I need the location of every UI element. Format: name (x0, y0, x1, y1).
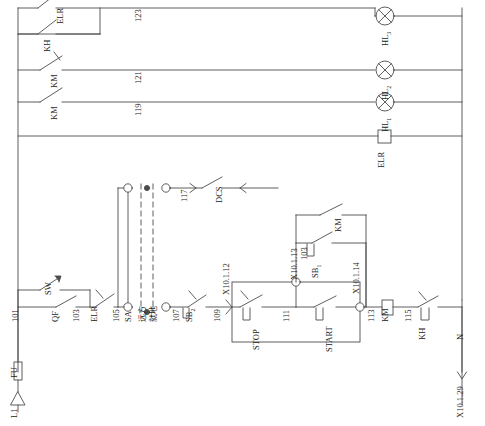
sa-terminal-top-left (124, 184, 132, 192)
schematic-canvas: 123 121 119 117 ELR KH KM KM HL3 HL2 HL1… (0, 0, 485, 426)
contact-label-sb1: SB1 (311, 265, 322, 278)
sa-dot-top (144, 185, 149, 190)
rung-number-119: 119 (134, 104, 143, 116)
coil-label-km: KM (381, 308, 390, 322)
contact-label-sw: SW (44, 282, 53, 295)
lamp-label-hl1: HL1 (381, 118, 392, 132)
contact-label-dcs: DCS (215, 186, 224, 203)
contact-label-elr-top: ELR (56, 8, 65, 24)
start-button-bracket (316, 308, 323, 320)
phase-label-l1: L1 (10, 409, 19, 418)
terminal-x10114-node (356, 303, 364, 311)
km-no-blade (40, 88, 62, 102)
rung-number-121: 121 (134, 71, 143, 84)
kh-nc-blade (418, 296, 438, 307)
terminal-label-x10114: X10.1.14 (352, 262, 361, 294)
wire-number-111: 111 (282, 310, 291, 322)
terminal-label-x10113: X10.1.13 (290, 248, 299, 280)
terminal-label-x10112: X10.1.12 (222, 263, 231, 295)
wire-number-105: 105 (112, 309, 121, 322)
terminal-label-x10129: X10.1.29 (456, 386, 465, 418)
contact-label-kh-top: KH (43, 40, 52, 52)
switch-label-sa: SA (124, 311, 133, 322)
button-label-start[interactable]: START (325, 326, 334, 352)
kh-button-bracket (421, 308, 429, 320)
button-label-stop[interactable]: STOP (252, 329, 261, 350)
contact-label-elr-main: ELR (90, 306, 99, 322)
wire-number-113: 113 (367, 310, 376, 322)
sb2-bar (189, 291, 196, 299)
rung-number-123: 123 (134, 9, 143, 22)
sw-arrowhead (55, 276, 61, 282)
sa-terminal-bottom-left (124, 303, 132, 311)
contact-label-km-nc: KM (50, 74, 59, 88)
wire-number-107: 107 (172, 309, 181, 322)
lamp-label-hl3: HL3 (381, 32, 392, 46)
kh-nc-bar (419, 292, 426, 300)
wire-number-109: 109 (213, 309, 222, 322)
contact-label-sb2: SB2 (185, 309, 196, 322)
elr-nc-bar (96, 290, 103, 298)
elr-contact-blade (38, 0, 56, 8)
schematic-drawing (0, 0, 485, 426)
sa-position-local: 就地 (150, 306, 158, 322)
neutral-label-n: N (456, 334, 465, 340)
relay-label-elr: ELR (377, 152, 386, 168)
sb1-contact-blade (312, 232, 332, 243)
contact-label-qf: QF (51, 311, 60, 322)
stop-bar (241, 291, 248, 299)
sa-terminal-top-right (162, 184, 170, 192)
start-contact-blade (314, 296, 336, 307)
stop-button-bracket (243, 308, 250, 320)
sb2-contact-blade (188, 295, 206, 307)
stop-contact-blade (240, 295, 262, 307)
l1-terminal-triangle (11, 392, 25, 405)
wire-number-103: 103 (72, 309, 81, 322)
contact-label-kh-bottom: KH (418, 328, 427, 340)
wire-number-101: 101 (11, 309, 20, 322)
sa-position-remote: 远方 (139, 306, 147, 322)
wire-number-115: 115 (404, 310, 413, 322)
wire-number-103-seal: 103 (300, 247, 309, 260)
fuse-label-fu: FU (10, 367, 19, 378)
qf-contact-blade (56, 296, 76, 307)
contact-label-km-aux: KM (334, 218, 343, 232)
sa-terminal-bottom-right (162, 303, 170, 311)
lamp-label-hl2: HL2 (381, 86, 392, 100)
rung-number-117: 117 (180, 190, 189, 202)
km-aux-blade (320, 204, 342, 215)
contact-label-km-no: KM (50, 106, 59, 120)
kh-contact-blade (38, 20, 56, 34)
